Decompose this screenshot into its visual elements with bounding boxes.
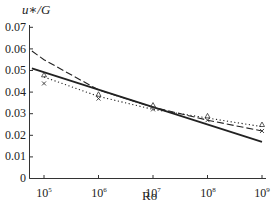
cross-marker [42, 81, 46, 85]
x-tick-label: 109 [247, 184, 276, 199]
dashed-line [32, 51, 262, 131]
x-tick-label: 107 [138, 184, 168, 199]
x-tick-label: 108 [193, 184, 223, 199]
triangle-marker [205, 113, 210, 118]
y-tick-label: 0.06 [0, 43, 26, 55]
y-tick-label: 0.07 [0, 21, 26, 33]
y-axis-label: u∗/G [22, 2, 50, 18]
triangle-marker [96, 92, 101, 97]
y-tick-label: 0.04 [0, 86, 26, 98]
y-tick-label: 0.03 [0, 107, 26, 119]
cross-marker [97, 97, 101, 101]
triangle-marker [260, 122, 265, 127]
chart: u∗/G Ro 0.07 0.06 0.05 0.04 0.03 0.02 0.… [0, 0, 276, 206]
y-tick-label: 0.05 [0, 64, 26, 76]
y-tick-label: 0 [0, 172, 26, 184]
x-tick-label: 106 [84, 184, 114, 199]
solid-line [32, 68, 262, 141]
x-tick-label: 105 [29, 184, 59, 199]
y-tick-label: 0.02 [0, 129, 26, 141]
plot-area [0, 0, 276, 206]
y-tick-label: 0.01 [0, 150, 26, 162]
